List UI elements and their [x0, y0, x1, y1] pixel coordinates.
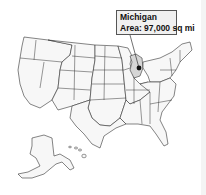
state-tooltip: Michigan Area: 97,000 sq mi — [116, 10, 177, 35]
tooltip-area: Area: 97,000 sq mi — [120, 23, 173, 34]
state-alaska[interactable] — [18, 135, 74, 178]
state-hawaii[interactable] — [69, 146, 87, 158]
location-marker-icon — [137, 66, 142, 71]
state-northeast[interactable] — [143, 42, 192, 82]
tooltip-state-name: Michigan — [120, 12, 173, 23]
